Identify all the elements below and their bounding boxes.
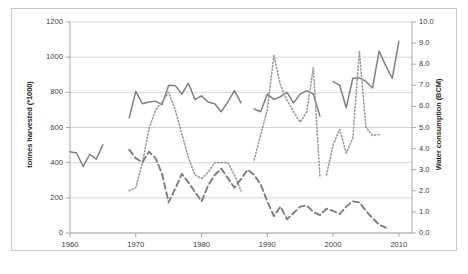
tick-x-label: 1980	[182, 240, 222, 249]
tick-marks-group	[66, 22, 416, 237]
tick-x-label: 1990	[247, 240, 287, 249]
tick-left-label: 0	[29, 228, 63, 237]
gridlines-group	[70, 22, 412, 233]
tick-right-label: 9.0	[419, 38, 453, 47]
tick-right-label: 10.0	[419, 17, 453, 26]
series-line-1-2	[327, 51, 380, 175]
tick-x-label: 2000	[313, 240, 353, 249]
tick-right-label: 3.0	[419, 165, 453, 174]
tick-right-label: 0.0	[419, 228, 453, 237]
chart-plot-area	[0, 0, 468, 274]
tick-right-label: 4.0	[419, 144, 453, 153]
tick-left-label: 400	[29, 158, 63, 167]
series-line-0-1	[129, 83, 241, 118]
tick-left-label: 600	[29, 123, 63, 132]
tick-x-label: 1960	[50, 240, 90, 249]
tick-right-label: 5.0	[419, 123, 453, 132]
tick-x-label: 1970	[116, 240, 156, 249]
tick-left-label: 1200	[29, 17, 63, 26]
series-line-2-0	[129, 150, 386, 228]
tick-right-label: 7.0	[419, 80, 453, 89]
tick-right-label: 8.0	[419, 59, 453, 68]
tick-right-label: 1.0	[419, 207, 453, 216]
tick-left-label: 800	[29, 87, 63, 96]
series-line-0-2	[254, 91, 320, 117]
tick-left-label: 1000	[29, 52, 63, 61]
chart-container: tonnes harvested (*1000) Water consumpti…	[0, 0, 468, 274]
data-series-group	[70, 41, 399, 227]
tick-right-label: 2.0	[419, 186, 453, 195]
tick-right-label: 6.0	[419, 101, 453, 110]
tick-left-label: 200	[29, 193, 63, 202]
tick-x-label: 2010	[379, 240, 419, 249]
series-line-0-3	[333, 41, 399, 107]
series-line-1-1	[254, 55, 320, 176]
series-line-0-0	[70, 145, 103, 167]
